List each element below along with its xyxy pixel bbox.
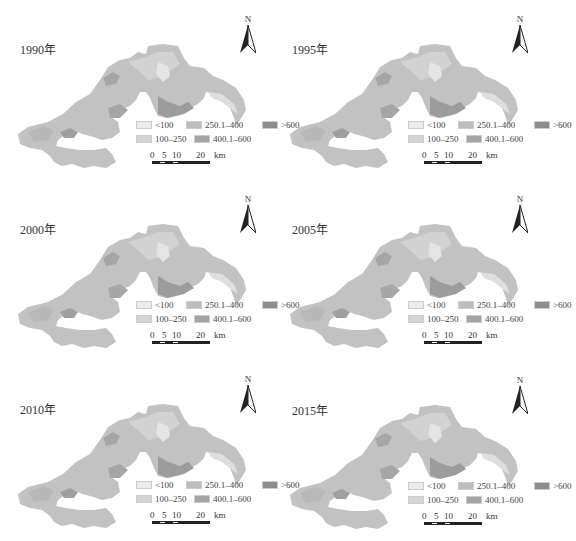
scale-tick: 20: [196, 150, 205, 160]
scale-tick: 10: [172, 150, 181, 160]
map-panel-2005: 2005年 N <100 250.1–400 >600: [272, 180, 544, 360]
legend-item: <100: [136, 480, 180, 490]
legend-swatch: [136, 495, 152, 503]
scale-bar: 0 5 10 20 km: [422, 150, 512, 170]
north-arrow: N: [236, 194, 260, 236]
legend-item: 100–250: [136, 134, 188, 144]
scale-bar: 0 5 10 20 km: [150, 330, 240, 350]
legend: <100 250.1–400 >600 100–250 400.1–600: [408, 298, 576, 326]
legend-label: 400.1–600: [485, 495, 523, 505]
north-arrow: N: [508, 375, 532, 417]
scale-tick: 20: [196, 330, 205, 340]
legend-swatch: [458, 301, 474, 309]
legend-item: <100: [136, 120, 180, 130]
legend-label: <100: [427, 120, 446, 130]
legend-label: 400.1–600: [485, 134, 523, 144]
legend-item: 100–250: [408, 495, 460, 505]
legend-swatch: [136, 481, 152, 489]
scale-tick: 0: [150, 150, 155, 160]
map-panel-2000: 2000年 N <100 250.1–400 >600: [0, 180, 272, 360]
legend-label: <100: [427, 481, 446, 491]
north-arrow-icon: [240, 25, 256, 53]
legend-label: 100–250: [155, 314, 187, 324]
legend-item: >600: [534, 300, 572, 310]
legend-swatch: [194, 495, 210, 503]
legend-label: <100: [155, 480, 174, 490]
legend-swatch: [194, 315, 210, 323]
legend-swatch: [136, 121, 152, 129]
legend-swatch: [466, 496, 482, 504]
scale-tick: 0: [150, 330, 155, 340]
map-panel-2015: 2015年 N <100 250.1–400 >600: [272, 361, 544, 541]
north-label: N: [236, 14, 260, 24]
north-arrow-icon: [512, 25, 528, 53]
legend-swatch: [408, 301, 424, 309]
north-arrow: N: [508, 194, 532, 236]
legend-label: <100: [155, 120, 174, 130]
legend-swatch: [408, 315, 424, 323]
legend-item: 400.1–600: [466, 495, 523, 505]
legend-swatch: [534, 121, 550, 129]
scale-bar-graphic: [152, 521, 210, 524]
legend-label: 250.1–400: [477, 300, 515, 310]
legend-label: 100–250: [427, 495, 459, 505]
scale-bar: 0 5 10 20 km: [422, 511, 512, 531]
legend-item: 250.1–400: [458, 481, 528, 491]
scale-tick: 5: [162, 330, 167, 340]
legend-item: 400.1–600: [466, 134, 523, 144]
scale-unit: km: [214, 150, 226, 160]
legend-label: 250.1–400: [205, 480, 243, 490]
legend-label: 400.1–600: [213, 494, 251, 504]
legend-item: 250.1–400: [186, 480, 256, 490]
legend-item: 250.1–400: [458, 300, 528, 310]
legend-swatch: [136, 135, 152, 143]
scale-tick: 0: [422, 150, 427, 160]
scale-tick: 0: [422, 511, 427, 521]
scale-tick: 5: [434, 150, 439, 160]
scale-unit: km: [486, 150, 498, 160]
map-panel-2010: 2010年 N <100 250.1–400 >600: [0, 360, 272, 540]
scale-tick: 5: [162, 510, 167, 520]
north-label: N: [508, 194, 532, 204]
scale-tick: 5: [434, 330, 439, 340]
north-arrow-icon: [240, 385, 256, 413]
scale-tick: 10: [444, 330, 453, 340]
legend-item: 100–250: [136, 494, 188, 504]
north-arrow: N: [236, 374, 260, 416]
scale-tick: 5: [162, 150, 167, 160]
legend-label: <100: [155, 300, 174, 310]
scale-tick: 20: [468, 150, 477, 160]
legend-label: 250.1–400: [205, 120, 243, 130]
legend-swatch: [534, 482, 550, 490]
legend-label: 100–250: [155, 494, 187, 504]
legend-label: 100–250: [427, 134, 459, 144]
legend-swatch: [194, 135, 210, 143]
legend-item: 400.1–600: [466, 314, 523, 324]
scale-tick: 10: [172, 510, 181, 520]
legend-item: <100: [408, 300, 452, 310]
scale-bar-graphic: [424, 522, 482, 525]
scale-tick: 20: [468, 330, 477, 340]
legend-label: 100–250: [427, 314, 459, 324]
legend-item: 100–250: [136, 314, 188, 324]
legend-item: 100–250: [408, 134, 460, 144]
scale-bar: 0 5 10 20 km: [150, 510, 240, 530]
scale-bar: 0 5 10 20 km: [150, 150, 240, 170]
legend-label: 400.1–600: [213, 314, 251, 324]
legend-label: 400.1–600: [213, 134, 251, 144]
legend-item: >600: [534, 481, 572, 491]
legend-label: 400.1–600: [485, 314, 523, 324]
legend-swatch: [466, 135, 482, 143]
scale-bar: 0 5 10 20 km: [422, 330, 512, 350]
legend-swatch: [186, 481, 202, 489]
north-arrow: N: [508, 14, 532, 56]
north-arrow-icon: [512, 205, 528, 233]
legend-item: 250.1–400: [186, 300, 256, 310]
legend-swatch: [408, 121, 424, 129]
scale-unit: km: [214, 330, 226, 340]
legend-label: >600: [553, 481, 572, 491]
scale-bar-graphic: [424, 161, 482, 164]
legend-label: 100–250: [155, 134, 187, 144]
north-label: N: [508, 375, 532, 385]
scale-tick: 10: [444, 150, 453, 160]
